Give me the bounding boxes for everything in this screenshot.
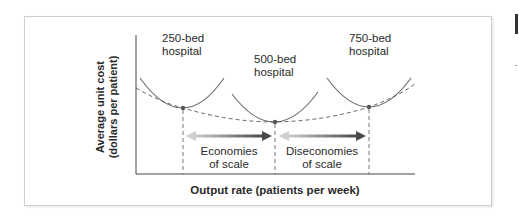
diseconomies-of-scale-arrow: [279, 131, 366, 141]
y-axis-label-line2: (dollars per patient): [107, 56, 120, 159]
min-point-250: [181, 106, 185, 110]
min-point-750: [367, 105, 371, 109]
label-250-bed-hospital: 250-bed hospital: [162, 32, 204, 58]
min-point-500: [273, 120, 277, 124]
economies-of-scale-arrow: [186, 131, 272, 141]
label-500-line1: 500-bed: [254, 53, 296, 66]
label-250-line2: hospital: [162, 45, 204, 58]
label-500-bed-hospital: 500-bed hospital: [254, 53, 296, 79]
curve-500-bed: [232, 92, 318, 122]
label-750-bed-hospital: 750-bed hospital: [349, 32, 391, 58]
curve-250-bed: [140, 78, 224, 108]
label-economies-of-scale: Economies of scale: [201, 145, 258, 171]
economies-line2: of scale: [201, 158, 258, 171]
long-run-average-cost-envelope: [136, 84, 415, 122]
y-axis-label-line1: Average unit cost: [94, 56, 107, 159]
y-axis-label: Average unit cost (dollars per patient): [94, 56, 120, 159]
label-750-line2: hospital: [349, 45, 391, 58]
x-axis-label: Output rate (patients per week): [190, 184, 359, 196]
adjacent-content-tick: [515, 65, 517, 66]
label-diseconomies-of-scale: Diseconomies of scale: [286, 145, 358, 171]
diseconomies-line1: Diseconomies: [286, 145, 358, 158]
label-250-line1: 250-bed: [162, 32, 204, 45]
economies-line1: Economies: [201, 145, 258, 158]
diseconomies-line2: of scale: [286, 158, 358, 171]
adjacent-content-edge: [515, 14, 518, 34]
curve-750-bed: [327, 78, 411, 107]
label-500-line2: hospital: [254, 66, 296, 79]
label-750-line1: 750-bed: [349, 32, 391, 45]
